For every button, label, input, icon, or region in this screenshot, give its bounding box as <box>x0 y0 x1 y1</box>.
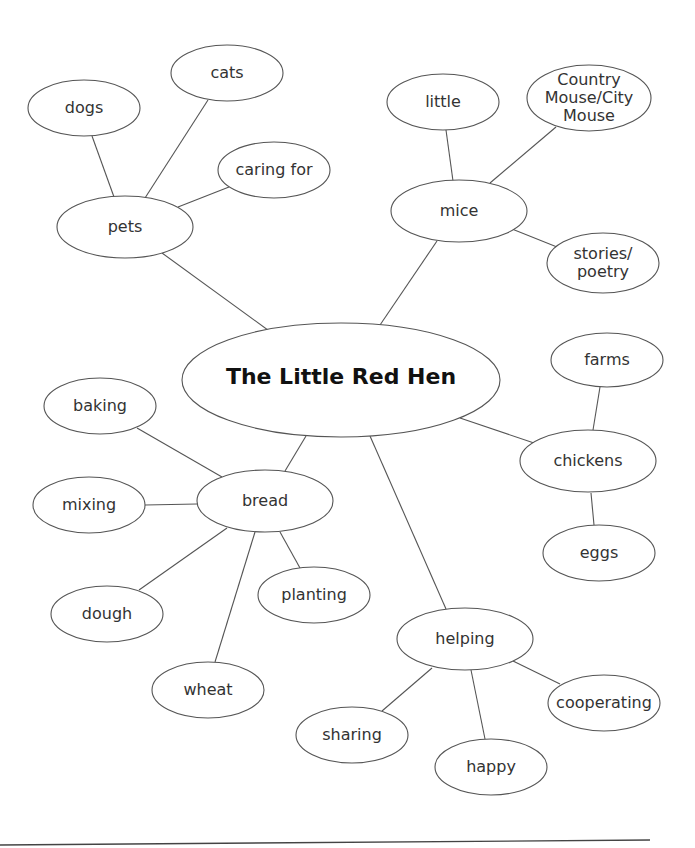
node-label: happy <box>466 757 516 776</box>
connector-bread-dough <box>139 528 227 590</box>
connector-helping-happy <box>471 670 485 739</box>
node-label: bread <box>242 491 288 510</box>
concept-map: petsdogscatscaring formicelittleCountryM… <box>0 0 695 848</box>
node-happy: happy <box>435 739 547 795</box>
footer-divider <box>0 840 650 845</box>
node-eggs: eggs <box>543 525 655 581</box>
node-label: dogs <box>65 98 103 117</box>
connector-hen-chickens <box>460 418 534 443</box>
node-country-mouse: CountryMouse/CityMouse <box>527 65 651 131</box>
connector-bread-baking <box>137 428 222 477</box>
node-label: mice <box>440 201 479 220</box>
connector-chickens-eggs <box>591 493 594 525</box>
node-label: planting <box>281 585 347 604</box>
node-cats: cats <box>171 45 283 101</box>
node-helping: helping <box>397 608 533 670</box>
node-label: little <box>425 92 461 111</box>
node-sharing: sharing <box>296 707 408 763</box>
connector-hen-helping <box>370 436 446 609</box>
node-dough: dough <box>51 586 163 642</box>
node-label: caring for <box>235 160 312 179</box>
node-label: eggs <box>580 543 619 562</box>
node-label: Mouse <box>563 106 615 125</box>
node-label: Country <box>557 70 621 89</box>
connector-pets-cats <box>145 100 208 198</box>
connector-hen-pets <box>162 253 272 333</box>
connector-hen-bread <box>285 436 306 471</box>
node-label: helping <box>435 629 494 648</box>
node-chickens: chickens <box>520 430 656 492</box>
node-label: poetry <box>577 262 629 281</box>
connector-pets-caring-for <box>178 187 229 207</box>
node-label: sharing <box>322 725 382 744</box>
node-bread: bread <box>197 470 333 532</box>
node-pets: pets <box>57 196 193 258</box>
central-topic-label: The Little Red Hen <box>226 364 456 389</box>
node-label: cats <box>210 63 243 82</box>
node-label: dough <box>82 604 132 623</box>
central-topic: The Little Red Hen <box>182 323 500 437</box>
node-planting: planting <box>258 567 370 623</box>
node-baking: baking <box>44 378 156 434</box>
node-label: chickens <box>553 451 622 470</box>
connector-mice-little <box>446 130 453 181</box>
node-label: pets <box>108 217 143 236</box>
connector-chickens-farms <box>593 387 600 430</box>
node-label: Mouse/City <box>545 88 634 107</box>
connector-helping-sharing <box>382 668 432 711</box>
node-mixing: mixing <box>33 477 145 533</box>
connector-helping-cooperating <box>513 661 560 684</box>
node-dogs: dogs <box>28 80 140 136</box>
connector-mice-country-mouse <box>490 127 556 183</box>
node-label: farms <box>584 350 630 369</box>
connector-bread-mixing <box>145 504 197 505</box>
connector-mice-stories-poetry <box>512 229 557 247</box>
connector-pets-dogs <box>92 136 114 197</box>
connector-hen-mice <box>380 241 437 325</box>
node-farms: farms <box>551 333 663 387</box>
node-label: baking <box>73 396 127 415</box>
node-wheat: wheat <box>152 662 264 718</box>
node-mice: mice <box>391 180 527 242</box>
connector-bread-wheat <box>215 532 255 662</box>
node-caring-for: caring for <box>218 142 330 198</box>
connector-bread-planting <box>280 532 300 568</box>
node-little: little <box>387 74 499 130</box>
node-label: stories/ <box>574 244 634 263</box>
node-stories-poetry: stories/poetry <box>547 233 659 293</box>
node-cooperating: cooperating <box>548 675 660 731</box>
node-label: cooperating <box>556 693 652 712</box>
node-label: wheat <box>183 680 232 699</box>
node-label: mixing <box>62 495 116 514</box>
